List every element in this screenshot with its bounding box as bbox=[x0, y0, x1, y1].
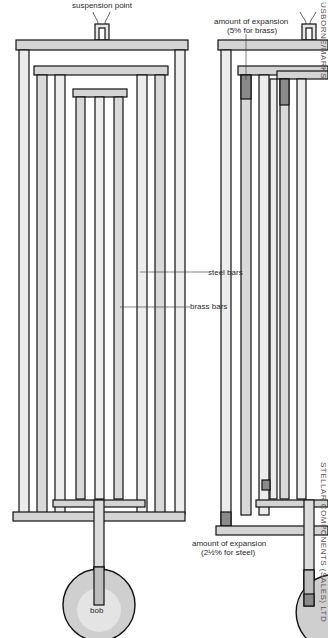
credit-usborne: USBORNE/MARKS bbox=[319, 2, 328, 79]
brass-bars-label: brass bars bbox=[190, 302, 227, 311]
gridiron-pendulum-diagram: suspension point steel bars brass bars b… bbox=[0, 0, 328, 638]
suspension-point-label: suspension point bbox=[72, 1, 132, 10]
steel-expansion-label-line1: amount of expansion bbox=[192, 539, 266, 548]
brass-expansion-label-line1: amount of expansion bbox=[214, 17, 288, 26]
credit-stellar-components: STELLAR COMPONENTS (SALES) LTD bbox=[319, 462, 328, 622]
steel-expansion-label-line2: (2½% for steel) bbox=[201, 548, 255, 557]
brass-expansion-label-line2: (5% for brass) bbox=[227, 26, 277, 35]
bob-label: bob bbox=[90, 606, 103, 615]
pendulum-drawing bbox=[0, 0, 328, 638]
steel-bars-label: steel bars bbox=[208, 268, 243, 277]
left-pendulum bbox=[13, 12, 208, 638]
